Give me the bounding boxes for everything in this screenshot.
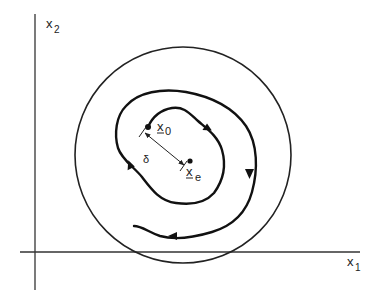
- svg-text:x: x: [46, 16, 53, 31]
- svg-text:1: 1: [355, 262, 361, 273]
- equilibrium-point-marker: [187, 158, 192, 163]
- svg-text:2: 2: [54, 24, 60, 35]
- svg-text:x: x: [347, 254, 354, 269]
- x2-axis-label: x 2: [46, 16, 60, 35]
- outer-circle: [75, 47, 291, 263]
- svg-text:e: e: [195, 171, 201, 183]
- svg-text:x: x: [157, 119, 164, 134]
- arrowhead-icon: [245, 169, 254, 179]
- initial-point-label: x 0: [157, 119, 171, 137]
- x1-axis-label: x 1: [347, 254, 361, 273]
- stability-diagram: x 2 x 1 x 0 x e δ: [0, 0, 378, 303]
- equilibrium-point-label: x e: [186, 164, 201, 183]
- delta-label: δ: [143, 153, 149, 165]
- svg-text:x: x: [186, 164, 193, 179]
- svg-text:0: 0: [165, 125, 171, 137]
